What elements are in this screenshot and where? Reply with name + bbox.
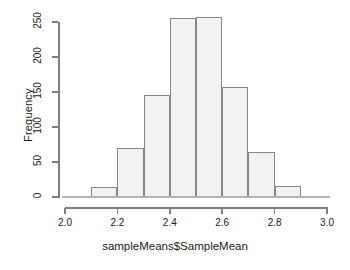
x-axis-tick-label: 2.8 [255, 217, 295, 228]
histogram-bar [196, 17, 222, 198]
y-axis-tick-label: 250 [32, 8, 43, 34]
x-axis-tick-label: 2.2 [97, 217, 137, 228]
histogram-bar [170, 18, 196, 198]
y-axis-tick-label: 0 [32, 183, 43, 209]
x-axis-tick-label: 3.0 [307, 217, 347, 228]
y-axis-tick-label: 200 [32, 43, 43, 69]
x-axis-tick [221, 208, 223, 214]
histogram-bar [144, 95, 170, 198]
x-axis-tick [274, 208, 276, 214]
y-axis-tick [52, 126, 58, 128]
x-axis-tick [117, 208, 119, 214]
y-axis-tick [52, 196, 58, 198]
x-axis-tick [64, 208, 66, 214]
x-axis-tick [326, 208, 328, 214]
histogram-bar [117, 148, 143, 198]
y-axis-tick [52, 161, 58, 163]
y-axis-line [58, 22, 60, 198]
y-axis-tick [52, 21, 58, 23]
x-axis-line [65, 207, 328, 209]
x-axis-label: sampleMeans$SampleMean [0, 240, 350, 252]
x-axis-tick-label: 2.6 [202, 217, 242, 228]
baseline-shadow [62, 196, 330, 198]
y-axis-tick [52, 91, 58, 93]
histogram-plot: 050100150200250 2.02.22.42.62.83.0 Frequ… [0, 0, 350, 270]
histogram-bar [222, 87, 248, 198]
x-axis-tick [169, 208, 171, 214]
y-axis-tick-label: 50 [32, 148, 43, 174]
y-axis-tick [52, 56, 58, 58]
x-axis-tick-label: 2.0 [45, 217, 85, 228]
histogram-bar [248, 152, 274, 198]
x-axis-tick-label: 2.4 [150, 217, 190, 228]
plot-area: 050100150200250 2.02.22.42.62.83.0 Frequ… [0, 0, 350, 270]
y-axis-label: Frequency [22, 88, 34, 142]
